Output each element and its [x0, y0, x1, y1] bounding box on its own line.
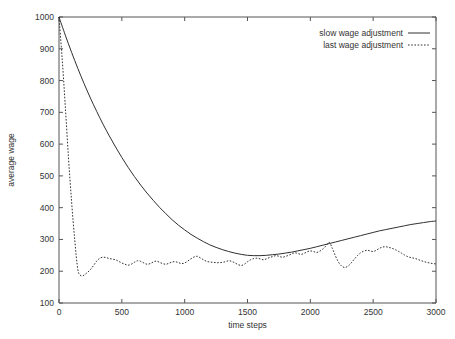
- x-tick-label: 2500: [364, 307, 383, 317]
- series-layer: [59, 17, 436, 276]
- x-tick-label: 2000: [301, 307, 320, 317]
- x-tick-label: 1000: [175, 307, 194, 317]
- series-line-1: [59, 17, 436, 256]
- x-tick-label: 0: [57, 307, 62, 317]
- y-tick-label: 200: [40, 266, 54, 276]
- x-axis-ticks: [59, 17, 436, 303]
- chart-legend: slow wage adjustmentlast wage adjustment: [319, 28, 430, 50]
- average-wage-line-chart: 050010001500200025003000 100200300400500…: [0, 0, 455, 339]
- y-tick-label: 100: [40, 298, 54, 308]
- x-axis-title: time steps: [228, 320, 267, 330]
- y-tick-label: 600: [40, 139, 54, 149]
- y-axis-tick-labels: 1002003004005006007008009001000: [35, 12, 54, 308]
- legend-label-2: last wage adjustment: [323, 40, 403, 50]
- chart-container: 050010001500200025003000 100200300400500…: [0, 0, 455, 339]
- x-tick-label: 500: [115, 307, 129, 317]
- y-tick-label: 300: [40, 234, 54, 244]
- y-tick-label: 1000: [35, 12, 54, 22]
- x-tick-label: 1500: [238, 307, 257, 317]
- x-axis-tick-labels: 050010001500200025003000: [57, 307, 446, 317]
- plot-border: [59, 17, 436, 303]
- y-tick-label: 700: [40, 107, 54, 117]
- x-tick-label: 3000: [427, 307, 446, 317]
- y-tick-label: 800: [40, 76, 54, 86]
- y-tick-label: 500: [40, 171, 54, 181]
- y-tick-label: 400: [40, 203, 54, 213]
- legend-label-1: slow wage adjustment: [319, 28, 403, 38]
- y-axis-title: average wage: [6, 133, 16, 187]
- y-tick-label: 900: [40, 44, 54, 54]
- y-axis-ticks: [59, 17, 436, 303]
- plot-frame: [59, 17, 436, 303]
